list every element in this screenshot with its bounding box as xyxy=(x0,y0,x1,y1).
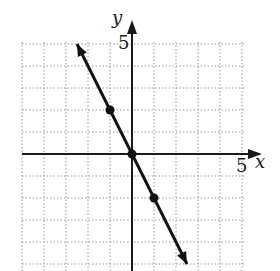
x-tick-label: 5 xyxy=(236,155,247,176)
x-axis xyxy=(22,149,262,159)
y-axis-label: y xyxy=(111,7,123,28)
coordinate-plane: y 5 5 x xyxy=(0,0,280,271)
data-point xyxy=(150,194,159,203)
x-axis-label: x xyxy=(255,151,265,172)
data-point xyxy=(128,150,137,159)
y-tick-label: 5 xyxy=(118,32,129,53)
data-point xyxy=(106,106,115,115)
